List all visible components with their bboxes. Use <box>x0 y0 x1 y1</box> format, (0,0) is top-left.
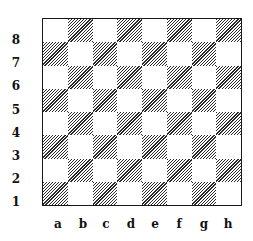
square-f6 <box>167 66 192 89</box>
square-g2 <box>192 159 217 182</box>
square-g4 <box>192 112 217 135</box>
square-g1 <box>192 182 217 205</box>
square-a7 <box>43 42 68 65</box>
square-h8 <box>216 19 241 42</box>
square-f7 <box>167 42 192 65</box>
square-d5 <box>117 89 142 112</box>
square-d3 <box>117 135 142 158</box>
square-a6 <box>43 66 68 89</box>
rank-label-5: 5 <box>8 103 24 117</box>
square-e5 <box>142 89 167 112</box>
file-label-g: g <box>196 217 212 231</box>
square-d1 <box>117 182 142 205</box>
square-b6 <box>68 66 93 89</box>
square-b2 <box>68 159 93 182</box>
square-h5 <box>216 89 241 112</box>
square-f4 <box>167 112 192 135</box>
square-h7 <box>216 42 241 65</box>
square-c2 <box>93 159 118 182</box>
square-h6 <box>216 66 241 89</box>
square-c1 <box>93 182 118 205</box>
file-label-d: d <box>123 217 139 231</box>
file-label-a: a <box>50 217 66 231</box>
square-f2 <box>167 159 192 182</box>
square-d4 <box>117 112 142 135</box>
square-g6 <box>192 66 217 89</box>
square-c6 <box>93 66 118 89</box>
file-label-e: e <box>147 217 163 231</box>
square-h4 <box>216 112 241 135</box>
square-f1 <box>167 182 192 205</box>
file-label-f: f <box>171 217 187 231</box>
square-b4 <box>68 112 93 135</box>
square-e4 <box>142 112 167 135</box>
file-label-h: h <box>220 217 236 231</box>
square-b7 <box>68 42 93 65</box>
square-a8 <box>43 19 68 42</box>
square-b1 <box>68 182 93 205</box>
square-g3 <box>192 135 217 158</box>
rank-label-7: 7 <box>8 56 24 70</box>
square-a2 <box>43 159 68 182</box>
square-f8 <box>167 19 192 42</box>
rank-label-6: 6 <box>8 79 24 93</box>
square-g7 <box>192 42 217 65</box>
square-a3 <box>43 135 68 158</box>
square-d7 <box>117 42 142 65</box>
square-f5 <box>167 89 192 112</box>
square-e6 <box>142 66 167 89</box>
square-c7 <box>93 42 118 65</box>
square-e2 <box>142 159 167 182</box>
rank-label-4: 4 <box>8 126 24 140</box>
square-g5 <box>192 89 217 112</box>
square-a5 <box>43 89 68 112</box>
square-f3 <box>167 135 192 158</box>
square-e7 <box>142 42 167 65</box>
square-e3 <box>142 135 167 158</box>
file-label-b: b <box>75 217 91 231</box>
rank-label-8: 8 <box>8 33 24 47</box>
square-a4 <box>43 112 68 135</box>
rank-label-3: 3 <box>8 149 24 163</box>
square-h2 <box>216 159 241 182</box>
file-label-c: c <box>98 217 114 231</box>
square-b8 <box>68 19 93 42</box>
square-e1 <box>142 182 167 205</box>
square-d2 <box>117 159 142 182</box>
square-b3 <box>68 135 93 158</box>
square-h1 <box>216 182 241 205</box>
square-d8 <box>117 19 142 42</box>
square-c4 <box>93 112 118 135</box>
square-e8 <box>142 19 167 42</box>
square-d6 <box>117 66 142 89</box>
square-b5 <box>68 89 93 112</box>
square-g8 <box>192 19 217 42</box>
square-c3 <box>93 135 118 158</box>
square-c5 <box>93 89 118 112</box>
square-c8 <box>93 19 118 42</box>
chessboard <box>42 18 242 206</box>
rank-label-2: 2 <box>8 172 24 186</box>
square-a1 <box>43 182 68 205</box>
square-h3 <box>216 135 241 158</box>
rank-label-1: 1 <box>8 195 24 209</box>
